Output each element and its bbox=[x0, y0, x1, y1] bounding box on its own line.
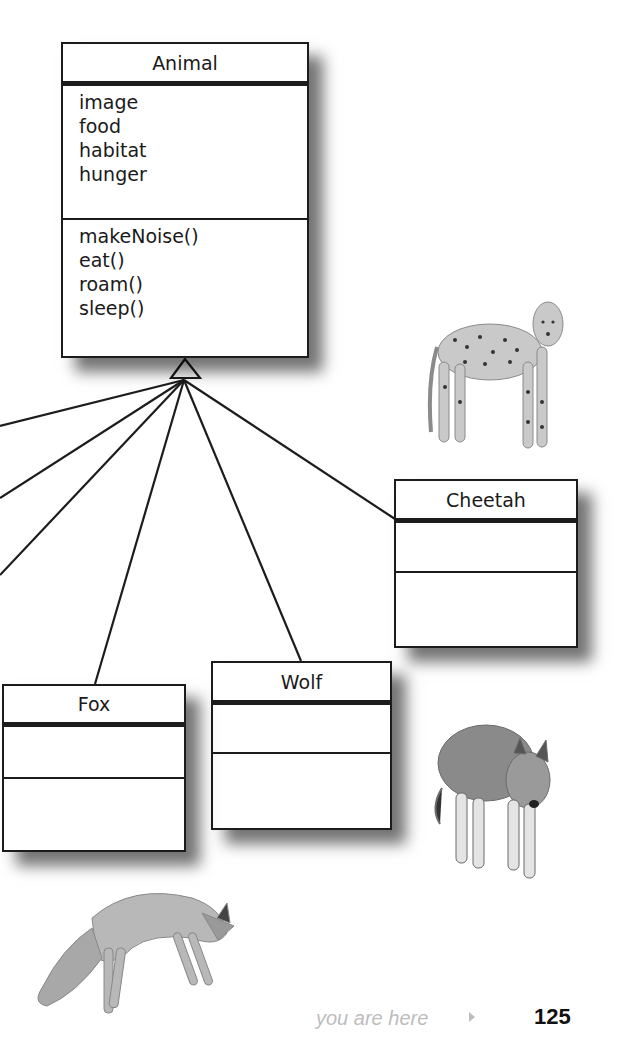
class-fox-attributes bbox=[4, 727, 184, 779]
line-to-cheetah bbox=[184, 380, 395, 519]
attribute: image bbox=[79, 90, 307, 114]
class-wolf-name: Wolf bbox=[213, 663, 390, 705]
inheritance-arrowhead-icon bbox=[171, 359, 200, 378]
class-fox: Fox bbox=[2, 684, 186, 852]
page-number: 125 bbox=[534, 1004, 571, 1030]
attribute: hunger bbox=[79, 162, 307, 186]
attribute: habitat bbox=[79, 138, 307, 162]
class-animal-methods: makeNoise() eat() roam() sleep() bbox=[63, 220, 307, 320]
class-animal-name: Animal bbox=[63, 44, 307, 86]
class-animal: Animal image food habitat hunger makeNoi… bbox=[61, 42, 309, 358]
class-fox-name: Fox bbox=[4, 686, 184, 727]
class-animal-attributes: image food habitat hunger bbox=[63, 86, 307, 220]
line-offscreen-1 bbox=[0, 380, 184, 426]
wolf-photo bbox=[428, 708, 558, 888]
cheetah-photo bbox=[425, 292, 575, 457]
class-cheetah-name: Cheetah bbox=[396, 481, 576, 523]
class-cheetah-attributes bbox=[396, 523, 576, 573]
you-are-here-label: you are here bbox=[316, 1007, 428, 1030]
method: eat() bbox=[79, 248, 307, 272]
line-to-wolf bbox=[184, 380, 301, 661]
arrow-right-icon bbox=[469, 1012, 475, 1022]
line-offscreen-2 bbox=[0, 380, 184, 498]
method: roam() bbox=[79, 272, 307, 296]
fox-photo bbox=[22, 878, 242, 1023]
class-cheetah-methods bbox=[396, 573, 576, 577]
class-wolf-attributes bbox=[213, 705, 390, 754]
class-wolf-methods bbox=[213, 754, 390, 758]
method: makeNoise() bbox=[79, 224, 307, 248]
class-wolf: Wolf bbox=[211, 661, 392, 830]
attribute: food bbox=[79, 114, 307, 138]
class-cheetah: Cheetah bbox=[394, 479, 578, 648]
method: sleep() bbox=[79, 296, 307, 320]
class-fox-methods bbox=[4, 779, 184, 783]
